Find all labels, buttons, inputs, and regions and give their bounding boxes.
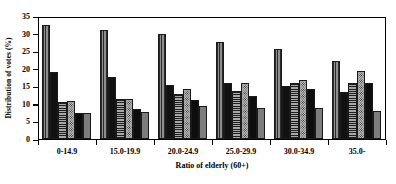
y-tick-label: 35 <box>22 12 30 22</box>
x-tick-mark <box>96 140 97 145</box>
y-tick-label: 15 <box>22 82 30 92</box>
bar-group <box>158 18 207 139</box>
bar <box>216 42 224 139</box>
bar <box>133 109 141 139</box>
y-tick-20: 20 <box>0 65 38 75</box>
y-tick-label: 0 <box>26 135 30 145</box>
bar <box>282 86 290 139</box>
y-tick-label: 5 <box>26 117 30 127</box>
bar <box>166 85 174 139</box>
bar <box>357 71 365 139</box>
x-tick-label: 35.0- <box>328 146 386 157</box>
y-tick-label: 10 <box>22 100 30 110</box>
bar <box>241 83 249 139</box>
bar <box>191 100 199 139</box>
y-tick-10: 10 <box>0 100 38 110</box>
x-tick-label: 15.0-19.9 <box>96 146 154 157</box>
y-tick-label: 20 <box>22 65 30 75</box>
bar-group <box>42 18 91 139</box>
bar <box>199 106 207 139</box>
bar <box>50 72 58 139</box>
bar-group <box>216 18 265 139</box>
bar <box>332 61 340 139</box>
bar <box>307 89 315 139</box>
y-tick-5: 5 <box>0 117 38 127</box>
bar <box>232 91 240 139</box>
x-tick-mark <box>38 140 39 145</box>
y-tick-15: 15 <box>0 82 38 92</box>
bar <box>299 80 307 139</box>
y-tick-label: 25 <box>22 47 30 57</box>
x-tick-label: 25.0-29.9 <box>212 146 270 157</box>
bar <box>340 92 348 139</box>
bar-group <box>332 18 381 139</box>
x-tick-mark <box>386 140 387 145</box>
x-tick-label: 30.0-34.9 <box>270 146 328 157</box>
bar <box>42 25 50 139</box>
bar <box>108 77 116 139</box>
y-tick-35: 35 <box>0 12 38 22</box>
bar <box>174 94 182 139</box>
bar <box>75 113 83 139</box>
bar-group <box>274 18 323 139</box>
bar <box>125 99 133 139</box>
x-tick-label: 20.0-24.9 <box>154 146 212 157</box>
bar <box>224 83 232 139</box>
x-tick-label: 0-14.9 <box>38 146 96 157</box>
bar <box>373 111 381 139</box>
y-tick-label: 30 <box>22 30 30 40</box>
bar <box>183 89 191 139</box>
bar <box>141 112 149 139</box>
bar-group <box>100 18 149 139</box>
x-tick-mark <box>270 140 271 145</box>
bar <box>249 96 257 139</box>
bar <box>257 108 265 139</box>
x-tick-mark <box>212 140 213 145</box>
bar <box>116 99 124 139</box>
y-tick-25: 25 <box>0 47 38 57</box>
bar <box>100 30 108 139</box>
bar <box>365 83 373 139</box>
bar <box>158 34 166 139</box>
bar <box>58 102 66 139</box>
bar-chart-figure: Distribution of votes (%) 05101520253035… <box>0 0 396 184</box>
x-axis-title: Ratio of elderly (60+) <box>38 161 386 170</box>
bar <box>348 83 356 139</box>
bar <box>67 101 75 139</box>
bar <box>83 113 91 139</box>
y-tick-30: 30 <box>0 30 38 40</box>
bar <box>290 83 298 139</box>
plot-area <box>38 17 386 140</box>
y-tick-0: 0 <box>0 135 38 145</box>
bar <box>315 108 323 139</box>
x-tick-mark <box>154 140 155 145</box>
bar <box>274 49 282 139</box>
x-tick-mark <box>328 140 329 145</box>
